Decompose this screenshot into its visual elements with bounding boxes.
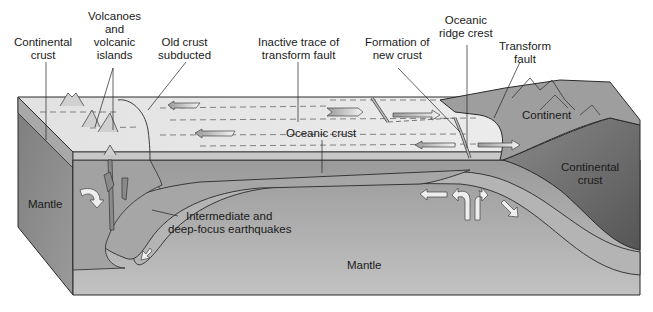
label-oceanic-ridge-crest: Oceanic ridge crest [439,14,493,40]
label-continental-crust-left: Continental crust [14,36,72,62]
label-oceanic-crust: Oceanic crust [286,127,356,140]
label-line: fault [499,53,551,66]
label-line: Continental [14,36,72,49]
label-line: volcanic [88,36,141,49]
label-line: crust [14,49,72,62]
label-line: subducted [158,49,211,62]
label-line: Inactive trace of [258,36,339,49]
label-earthquakes: Intermediate and deep-focus earthquakes [168,210,291,236]
label-line: islands [88,49,141,62]
label-line: Old crust [158,36,211,49]
label-line: Transform [499,40,551,53]
label-line: Oceanic [439,14,493,27]
label-continent: Continent [522,109,571,122]
label-line: Continental [561,161,619,174]
label-mantle-bottom: Mantle [347,259,382,272]
label-line: and [88,23,141,36]
label-line: crust [561,174,619,187]
label-line: Intermediate and [168,210,291,223]
label-volcanoes: Volcanoes and volcanic islands [88,10,141,62]
label-inactive-trace: Inactive trace of transform fault [258,36,339,62]
label-old-crust-subducted: Old crust subducted [158,36,211,62]
label-line: new crust [365,49,430,62]
label-mantle-left: Mantle [28,198,63,211]
label-line: Formation of [365,36,430,49]
label-continental-crust-right: Continental crust [561,161,619,187]
label-line: ridge crest [439,27,493,40]
label-line: transform fault [258,49,339,62]
label-line: deep-focus earthquakes [168,223,291,236]
label-transform-fault: Transform fault [499,40,551,66]
label-formation-new-crust: Formation of new crust [365,36,430,62]
label-line: Volcanoes [88,10,141,23]
